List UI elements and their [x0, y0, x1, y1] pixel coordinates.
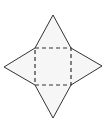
outer-outline	[4, 15, 102, 118]
pyramid-net-diagram: Net of a square pyramid	[0, 0, 110, 121]
net-svg	[0, 0, 110, 121]
